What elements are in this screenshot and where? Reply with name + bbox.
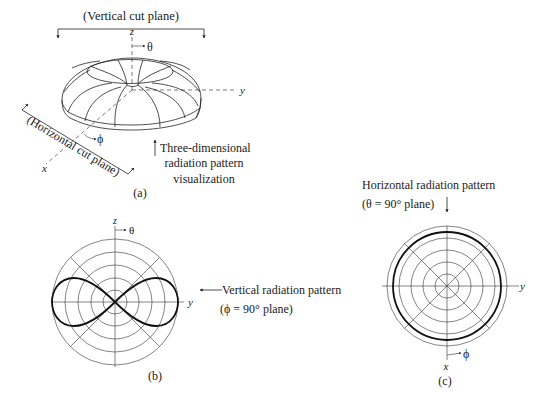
horizontal-cut-plane-label: (Horizontal cut plane) [24,113,122,180]
figure-c-title: Horizontal radiation pattern [362,178,495,192]
y-axis-label: y [239,84,245,96]
figure-b-label: (b) [148,369,162,383]
x-axis-label: x [41,162,47,174]
phi-arrow-icon-c [447,353,461,355]
annotation-line-3: visualization [173,172,234,186]
figure-b-vertical-pattern: z θ y (b) Vertical radiation pattern (ϕ … [52,215,341,383]
phi-label: ϕ [97,132,103,146]
x-axis-label-c: x [443,360,449,372]
figure-c-label: (c) [438,374,451,388]
figure-c-horizontal-pattern: Horizontal radiation pattern (θ = 90° pl… [362,178,525,388]
y-axis-label-c: y [519,280,525,292]
z-axis-label-b: z [112,215,117,226]
torus-pattern [62,58,201,130]
figure-a-label: (a) [133,186,146,200]
radiation-pattern-figure: (Vertical cut plane) z y x θ [0,0,535,401]
z-axis-label: z [129,25,135,37]
figure-a-3d-pattern: (Vertical cut plane) z y x θ [22,9,251,200]
figure-b-title: Vertical radiation pattern [222,283,341,297]
theta-label: θ [147,40,153,54]
figure-b-subtitle: (ϕ = 90° plane) [220,302,293,316]
annotation-line-1: Three-dimensional [160,141,251,155]
phi-arrow-icon [84,134,96,139]
y-axis-label-b: y [187,296,193,308]
annotation-line-2: radiation pattern [165,156,244,170]
polar-grid-b [52,226,184,367]
vertical-cut-plane-label: (Vertical cut plane) [83,9,179,23]
phi-label-c: ϕ [463,347,469,361]
theta-label-b: θ [129,224,134,236]
figure-c-subtitle: (θ = 90° plane) [362,197,434,211]
